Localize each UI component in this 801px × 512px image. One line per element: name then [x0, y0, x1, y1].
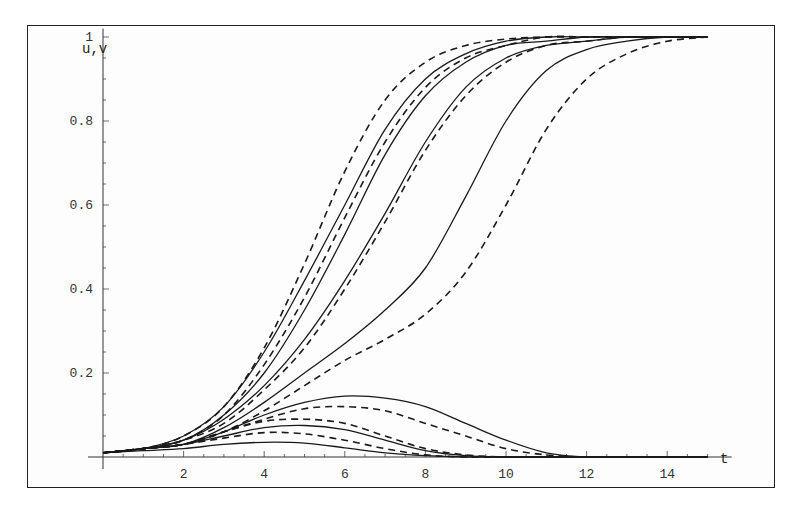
y-axis-label: u,v [82, 41, 107, 57]
series-line-1 [103, 37, 708, 453]
series-line-2 [103, 37, 708, 453]
x-tick-label: 2 [180, 467, 188, 482]
x-tick-label: 8 [421, 467, 429, 482]
x-tick-label: 12 [579, 467, 595, 482]
series-line-7 [103, 37, 708, 453]
x-tick-label: 4 [260, 467, 268, 482]
series-line-6 [103, 37, 708, 453]
x-tick-label: 14 [659, 467, 675, 482]
series-line-5 [103, 37, 708, 453]
x-axis-label: t [720, 451, 728, 467]
y-tick-label: 0.2 [70, 366, 93, 381]
curves [103, 36, 708, 457]
series-line-14 [103, 442, 708, 457]
x-tick-label: 6 [341, 467, 349, 482]
axes: 24681012140.20.40.60.81 [70, 29, 732, 482]
line-chart: 24681012140.20.40.60.81 u,v t [0, 0, 801, 512]
x-tick-label: 10 [498, 467, 514, 482]
y-tick-label: 0.6 [70, 198, 93, 213]
y-tick-label: 0.4 [70, 282, 94, 297]
series-line-3 [103, 36, 708, 452]
y-tick-label: 0.8 [70, 114, 93, 129]
series-line-10 [103, 407, 708, 458]
series-line-8 [103, 37, 708, 453]
series-line-4 [103, 37, 708, 453]
